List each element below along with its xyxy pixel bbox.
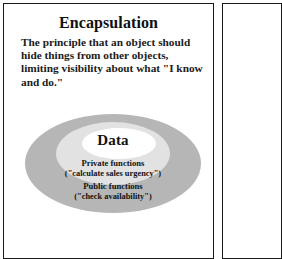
- ring-label-public: Public functions ("check availability"): [25, 182, 201, 201]
- ring-label-private-text: Private functions: [82, 158, 145, 168]
- ring-label-data-text: Data: [97, 132, 129, 148]
- ring-label-data: Data: [25, 132, 201, 149]
- ring-sublabel-public-text: ("check availability"): [25, 192, 201, 201]
- ring-label-private: Private functions ("calculate sales urge…: [25, 159, 201, 178]
- ring-label-public-text: Public functions: [83, 181, 142, 191]
- ring-sublabel-private-text: ("calculate sales urgency"): [25, 169, 201, 178]
- slide-panel-encapsulation: Encapsulation The principle that an obje…: [3, 3, 214, 259]
- encapsulation-diagram: Data Private functions ("calculate sales…: [25, 114, 201, 213]
- slide-body-text: The principle that an object should hide…: [21, 36, 203, 89]
- page-title: Encapsulation: [4, 14, 213, 32]
- slide-panel-next: [222, 3, 282, 259]
